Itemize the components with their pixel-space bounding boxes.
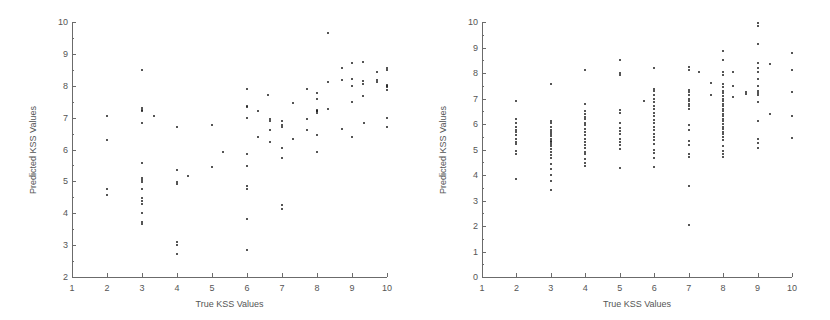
data-point xyxy=(688,69,690,71)
data-point xyxy=(351,101,353,103)
data-point xyxy=(791,69,793,71)
data-point xyxy=(141,223,143,225)
y-tick xyxy=(72,277,76,278)
y-axis-title: Predicted KSS Values xyxy=(438,106,448,194)
x-tick-label: 10 xyxy=(382,284,392,293)
data-point xyxy=(722,153,724,155)
data-point xyxy=(584,118,586,120)
data-point xyxy=(269,120,271,122)
data-point xyxy=(584,158,586,160)
data-point xyxy=(515,178,517,180)
x-tick-label: 8 xyxy=(314,284,319,293)
x-tick-label: 3 xyxy=(548,284,553,293)
data-point xyxy=(246,165,248,167)
data-point xyxy=(757,142,759,144)
y-tick-label: 7 xyxy=(450,94,478,103)
data-point xyxy=(757,94,759,96)
data-point xyxy=(769,113,771,115)
data-point xyxy=(757,138,759,140)
data-point xyxy=(653,112,655,114)
data-point xyxy=(653,108,655,110)
data-point xyxy=(584,103,586,105)
data-point xyxy=(153,115,155,117)
data-point xyxy=(732,71,734,73)
data-point xyxy=(791,91,793,93)
data-point xyxy=(306,129,308,131)
y-minor-tick xyxy=(482,60,484,61)
x-tick xyxy=(212,273,213,277)
data-point xyxy=(584,162,586,164)
data-point xyxy=(141,197,143,199)
data-point xyxy=(550,180,552,182)
y-tick xyxy=(72,22,76,23)
x-tick xyxy=(516,273,517,277)
data-point xyxy=(653,122,655,124)
x-tick-label: 2 xyxy=(104,284,109,293)
data-point xyxy=(386,117,388,119)
data-point xyxy=(653,115,655,117)
data-point xyxy=(141,122,143,124)
data-point xyxy=(757,101,759,103)
x-tick-label: 4 xyxy=(174,284,179,293)
data-point xyxy=(584,113,586,115)
x-tick-label: 6 xyxy=(244,284,249,293)
data-point xyxy=(141,181,143,183)
y-tick-label: 2 xyxy=(40,273,68,282)
data-point xyxy=(584,141,586,143)
y-tick xyxy=(72,54,76,55)
data-point xyxy=(316,112,318,114)
data-point xyxy=(757,25,759,27)
data-point xyxy=(515,134,517,136)
data-point xyxy=(653,105,655,107)
y-minor-tick xyxy=(482,111,484,112)
data-point xyxy=(653,90,655,92)
data-point xyxy=(722,83,724,85)
data-point xyxy=(653,101,655,103)
data-point xyxy=(550,189,552,191)
y-tick xyxy=(72,181,76,182)
data-point xyxy=(619,133,621,135)
data-point xyxy=(643,100,645,102)
data-point xyxy=(515,138,517,140)
data-point xyxy=(515,143,517,145)
data-point xyxy=(362,95,364,97)
data-point xyxy=(722,139,724,141)
y-minor-tick xyxy=(72,38,74,39)
data-point xyxy=(550,157,552,159)
data-point xyxy=(386,126,388,128)
data-point xyxy=(619,130,621,132)
data-point xyxy=(306,118,308,120)
data-point xyxy=(584,147,586,149)
y-minor-tick xyxy=(72,197,74,198)
data-point xyxy=(362,61,364,63)
x-axis-title: True KSS Values xyxy=(603,299,671,309)
data-point xyxy=(281,157,283,159)
y-tick-label: 8 xyxy=(40,81,68,90)
x-tick-label: 8 xyxy=(721,284,726,293)
y-tick xyxy=(482,73,486,74)
y-minor-tick xyxy=(482,239,484,240)
data-point xyxy=(246,249,248,251)
y-minor-tick xyxy=(72,229,74,230)
y-tick-label: 5 xyxy=(450,145,478,154)
data-point xyxy=(281,126,283,128)
data-point xyxy=(341,128,343,130)
y-tick xyxy=(482,277,486,278)
data-point xyxy=(141,69,143,71)
x-tick-label: 9 xyxy=(349,284,354,293)
data-point xyxy=(653,133,655,135)
data-point xyxy=(653,152,655,154)
data-point xyxy=(653,139,655,141)
data-point xyxy=(584,138,586,140)
data-point xyxy=(653,94,655,96)
y-minor-tick xyxy=(72,261,74,262)
x-axis-line xyxy=(72,277,387,278)
x-tick xyxy=(654,273,655,277)
data-point xyxy=(619,74,621,76)
y-tick-label: 4 xyxy=(40,209,68,218)
data-point xyxy=(619,109,621,111)
y-tick-label: 9 xyxy=(40,49,68,58)
scatter-panel-left: 234567891012345678910True KSS ValuesPred… xyxy=(0,0,415,320)
data-point xyxy=(710,82,712,84)
data-point xyxy=(688,224,690,226)
